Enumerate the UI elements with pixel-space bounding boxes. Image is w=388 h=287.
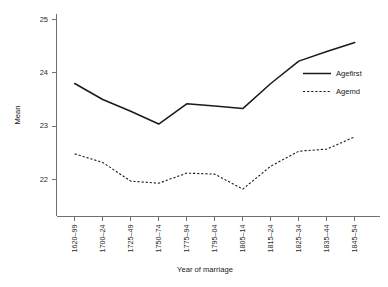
x-tick-label: 1825–34 [294,225,303,253]
y-tick-label: 23 [40,121,48,130]
x-tick-label: 1835–44 [322,225,331,253]
x-tick-label: 1620–99 [70,225,79,253]
y-axis-title: Mean [13,106,22,125]
x-tick-label: 1805–14 [238,225,247,253]
chart-legend: Agefirst Agemd [303,69,363,96]
chart-container: 25 24 23 22 Mean 1620–991700–241725–4917… [0,0,388,287]
series-line-agemd [75,137,355,189]
x-tick-label: 1725–49 [126,225,135,253]
x-tick-label: 1750–74 [154,225,163,253]
y-tick-label: 22 [40,175,48,184]
x-axis-tick-labels: 1620–991700–241725–491750–741775–941795–… [70,225,359,253]
y-tick-label: 25 [40,15,48,24]
line-chart: 25 24 23 22 Mean 1620–991700–241725–4917… [0,0,388,287]
y-axis-ticks [52,20,57,180]
x-axis-ticks [75,217,355,222]
y-tick-label: 24 [40,68,48,77]
x-axis-title: Year of marriage [177,265,233,274]
series-line-agefirst [75,42,355,124]
legend-label-agefirst: Agefirst [336,69,363,78]
x-tick-label: 1775–94 [182,225,191,253]
x-tick-label: 1700–24 [98,225,107,253]
x-tick-label: 1795–04 [210,225,219,253]
x-tick-label: 1815–24 [266,225,275,253]
y-axis-tick-labels: 25 24 23 22 [40,15,48,184]
x-tick-label: 1845–54 [350,225,359,253]
legend-label-agemd: Agemd [336,87,360,96]
